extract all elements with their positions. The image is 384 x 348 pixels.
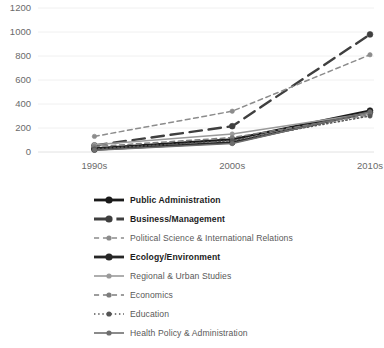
x-axis-tick-label: 2000s xyxy=(219,160,245,171)
legend-item[interactable]: Business/Management xyxy=(0,209,384,228)
legend-marker-icon xyxy=(92,212,126,226)
legend-marker-icon xyxy=(92,231,126,245)
legend-item[interactable]: Ecology/Environment xyxy=(0,247,384,266)
y-axis-labels: 120010008006004002000 xyxy=(10,2,31,157)
legend-item-label: Political Science & International Relati… xyxy=(130,233,293,243)
x-axis-tick-label: 2010s xyxy=(357,160,383,171)
legend-item-label: Public Administration xyxy=(130,195,221,205)
series-data-point xyxy=(92,134,96,138)
legend-item[interactable]: Health Policy & Administration xyxy=(0,323,384,342)
legend-item-label: Economics xyxy=(130,290,173,300)
legend-item-label: Business/Management xyxy=(130,214,225,224)
y-axis-tick-label: 200 xyxy=(15,122,31,133)
data-series-layer xyxy=(92,32,373,153)
legend-item-label: Ecology/Environment xyxy=(130,252,220,262)
chart-container: 120010008006004002000 1990s2000s2010s xyxy=(0,0,384,188)
legend-marker-icon xyxy=(92,326,126,340)
legend-item[interactable]: Education xyxy=(0,304,384,323)
series-data-point xyxy=(92,148,96,152)
chart-legend: Public AdministrationBusiness/Management… xyxy=(0,188,384,348)
series-data-point xyxy=(368,114,372,118)
y-axis-tick-label: 1000 xyxy=(10,26,31,37)
y-axis-tick-label: 800 xyxy=(15,50,31,61)
series-data-point xyxy=(368,110,372,114)
legend-item[interactable]: Political Science & International Relati… xyxy=(0,228,384,247)
legend-marker-icon xyxy=(92,193,126,207)
y-axis-tick-label: 0 xyxy=(26,146,31,157)
legend-item[interactable]: Public Administration xyxy=(0,190,384,209)
series-data-point xyxy=(229,123,235,129)
series-data-point xyxy=(230,141,234,145)
series-data-point xyxy=(367,32,373,38)
legend-item-label: Health Policy & Administration xyxy=(130,328,248,338)
legend-item-label: Education xyxy=(130,309,169,319)
series-data-point xyxy=(368,53,372,57)
y-axis-tick-label: 400 xyxy=(15,98,31,109)
series-data-point xyxy=(230,109,234,113)
legend-marker-icon xyxy=(92,288,126,302)
legend-item[interactable]: Economics xyxy=(0,285,384,304)
x-axis-tick-label: 1990s xyxy=(81,160,107,171)
y-axis-tick-label: 600 xyxy=(15,74,31,85)
gridlines xyxy=(38,8,374,152)
legend-item[interactable]: Regional & Urban Studies xyxy=(0,266,384,285)
legend-item-label: Regional & Urban Studies xyxy=(130,271,231,281)
line-chart-plot: 120010008006004002000 1990s2000s2010s xyxy=(0,0,384,188)
x-axis-labels: 1990s2000s2010s xyxy=(81,160,383,171)
legend-marker-icon xyxy=(92,250,126,264)
y-axis-tick-label: 1200 xyxy=(10,2,31,13)
legend-marker-icon xyxy=(92,307,126,321)
legend-marker-icon xyxy=(92,269,126,283)
